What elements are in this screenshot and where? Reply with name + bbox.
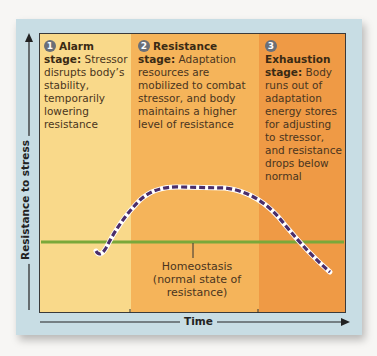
homeostasis-label: Homeostasis (normal state of resistance) xyxy=(152,260,242,299)
y-axis-arrow-icon xyxy=(25,33,33,42)
y-axis-label-text: Resistance to stress xyxy=(19,136,31,264)
x-axis-label: Time xyxy=(180,315,217,327)
y-axis-label: Resistance to stress xyxy=(18,100,32,300)
diagram-graphics xyxy=(0,0,377,356)
x-axis-arrow-icon xyxy=(341,318,350,326)
